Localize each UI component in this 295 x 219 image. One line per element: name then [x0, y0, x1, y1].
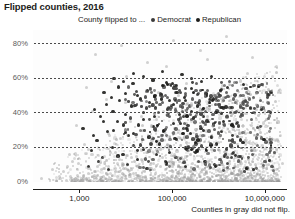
scatter-point — [207, 149, 209, 151]
scatter-point — [257, 159, 259, 161]
scatter-point — [274, 100, 277, 103]
scatter-point — [263, 75, 266, 78]
scatter-point — [262, 167, 264, 169]
scatter-point — [187, 164, 189, 166]
scatter-point — [269, 149, 272, 152]
scatter-point — [125, 75, 128, 78]
scatter-point — [228, 174, 230, 176]
scatter-point — [98, 181, 100, 182]
scatter-point — [245, 153, 247, 155]
scatter-point — [259, 181, 261, 182]
scatter-point — [246, 147, 248, 149]
scatter-point — [118, 150, 120, 152]
scatter-point — [190, 110, 193, 113]
scatter-point — [118, 99, 121, 102]
scatter-point — [229, 160, 231, 162]
scatter-point — [190, 77, 193, 80]
scatter-point — [280, 176, 282, 178]
scatter-point — [65, 175, 67, 177]
scatter-point — [208, 105, 210, 107]
scatter-point — [150, 133, 152, 135]
scatter-point — [231, 102, 233, 104]
x-tick-mark-0 — [79, 190, 80, 193]
scatter-point — [106, 181, 108, 182]
scatter-point — [267, 110, 270, 113]
scatter-point — [241, 141, 245, 145]
scatter-point — [270, 165, 273, 168]
scatter-point — [241, 113, 244, 116]
scatter-point — [100, 180, 103, 182]
scatter-point — [183, 174, 186, 177]
scatter-point — [233, 117, 235, 119]
scatter-point — [125, 154, 128, 157]
scatter-point — [217, 99, 220, 102]
scatter-point — [228, 103, 230, 105]
scatter-point — [143, 139, 145, 141]
scatter-point — [80, 164, 82, 166]
scatter-point — [273, 151, 276, 154]
legend-item-democrat[interactable]: Democrat — [151, 15, 191, 24]
scatter-point — [155, 171, 157, 173]
scatter-point — [166, 172, 168, 174]
y-tick-label-80: 80% — [4, 39, 28, 48]
chart-legend: County flipped to ... Democrat Republica… — [78, 15, 241, 24]
legend-dot-democrat-icon — [151, 18, 155, 22]
scatter-point — [218, 121, 221, 124]
scatter-point — [214, 156, 217, 159]
scatter-point — [226, 156, 229, 159]
scatter-point — [236, 103, 238, 105]
scatter-point — [186, 159, 188, 161]
scatter-point — [209, 159, 211, 161]
scatter-point — [279, 148, 281, 150]
scatter-point — [206, 152, 209, 155]
scatter-point — [181, 139, 183, 141]
scatter-point — [180, 111, 182, 113]
scatter-point — [259, 146, 261, 148]
scatter-point — [123, 150, 125, 152]
y-tick-label-20: 20% — [4, 142, 28, 151]
scatter-point — [136, 139, 138, 141]
x-tick-label-1: 100,000 — [158, 194, 187, 203]
scatter-point — [262, 121, 265, 124]
scatter-point — [49, 181, 51, 182]
scatter-point — [217, 167, 220, 170]
scatter-point — [103, 161, 106, 164]
scatter-point — [277, 144, 279, 146]
scatter-point — [175, 142, 177, 144]
scatter-point — [204, 172, 206, 174]
scatter-point — [181, 129, 183, 131]
scatter-point — [109, 140, 111, 142]
scatter-point — [140, 105, 143, 108]
scatter-point — [137, 169, 139, 171]
scatter-point — [209, 142, 212, 145]
scatter-point — [237, 145, 240, 148]
scatter-point — [161, 95, 164, 98]
scatter-point — [266, 82, 268, 84]
legend-item-republican[interactable]: Republican — [196, 15, 241, 24]
scatter-point — [113, 180, 116, 182]
scatter-point — [249, 131, 252, 134]
scatter-point — [245, 173, 247, 175]
scatter-point — [175, 161, 177, 163]
scatter-point — [184, 87, 187, 90]
scatter-point — [72, 165, 74, 167]
scatter-point — [171, 181, 173, 182]
scatter-point — [111, 146, 114, 149]
scatter-point — [126, 178, 128, 180]
scatter-point — [249, 107, 252, 110]
scatter-point — [278, 156, 280, 158]
scatter-point — [99, 171, 101, 173]
scatter-point — [125, 157, 127, 159]
scatter-point — [105, 98, 108, 101]
scatter-point — [180, 181, 182, 182]
scatter-point — [269, 90, 273, 94]
scatter-point — [251, 56, 254, 59]
scatter-point — [248, 161, 250, 163]
scatter-point — [176, 149, 178, 151]
scatter-point — [129, 150, 131, 152]
scatter-point — [211, 104, 213, 106]
scatter-point — [180, 73, 183, 76]
scatter-point — [268, 138, 271, 141]
scatter-point — [159, 180, 161, 182]
scatter-point — [277, 176, 279, 178]
